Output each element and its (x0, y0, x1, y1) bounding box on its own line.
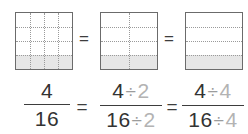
grid-line-horizontal (186, 55, 242, 56)
fraction-divide-by-four: 4÷4 16÷4 (182, 78, 244, 133)
numerator-divisor: 4 (219, 79, 231, 102)
numerator: 4÷4 (182, 78, 244, 104)
division-icon: ÷ (125, 81, 138, 102)
numerator-value: 4 (112, 79, 124, 102)
fraction-bar (24, 104, 70, 105)
area-model-fourths (185, 12, 243, 70)
denominator-value: 16 (106, 108, 130, 131)
denominator: 16÷4 (182, 107, 244, 133)
equals-sign-fractions-1: = (74, 98, 90, 116)
fraction-divide-by-two: 4÷2 16÷2 (100, 78, 162, 133)
numerator-value: 4 (194, 79, 206, 102)
division-icon: ÷ (131, 110, 144, 131)
grid-line-horizontal (186, 27, 242, 28)
grid-line-vertical (30, 13, 31, 69)
numerator: 4 (24, 78, 70, 103)
denominator: 16 (24, 106, 70, 131)
fraction-bar (100, 105, 162, 106)
fractions-row: 4 16 = 4÷2 16÷2 = 4÷4 16÷4 (0, 76, 248, 134)
denominator-divisor: 4 (226, 108, 238, 131)
division-icon: ÷ (207, 81, 220, 102)
denominator: 16÷2 (100, 107, 162, 133)
numerator-divisor: 2 (137, 79, 149, 102)
grid-line-horizontal (186, 41, 242, 42)
grid-line-vertical (129, 13, 130, 69)
denominator-value: 16 (35, 107, 59, 130)
grid-line-vertical (58, 13, 59, 69)
equals-sign-models-2: = (161, 32, 177, 46)
denominator-value: 16 (188, 108, 212, 131)
area-model-sixteenths (15, 12, 73, 70)
area-models-row: = = (0, 0, 248, 78)
division-icon: ÷ (213, 110, 226, 131)
numerator: 4÷2 (100, 78, 162, 104)
denominator-divisor: 2 (144, 108, 156, 131)
grid-line-vertical (44, 13, 45, 69)
numerator-value: 4 (41, 79, 53, 102)
equals-sign-fractions-2: = (164, 98, 180, 116)
equals-sign-models-1: = (76, 32, 92, 46)
fraction-figure: = = 4 16 = 4÷2 16÷2 = 4÷4 (0, 0, 248, 134)
fraction-four-sixteenths: 4 16 (24, 78, 70, 131)
area-model-eighths (100, 12, 158, 70)
shaded-region-fourths (186, 55, 242, 69)
fraction-bar (182, 105, 244, 106)
